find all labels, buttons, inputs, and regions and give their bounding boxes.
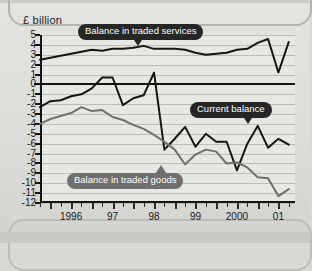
x-tick-label: 99 (190, 211, 201, 222)
x-tick (289, 203, 290, 207)
x-tick (71, 203, 73, 209)
x-tick (247, 203, 248, 207)
x-tick (216, 203, 218, 209)
x-tick (237, 203, 239, 209)
x-tick (206, 203, 207, 207)
x-tick (227, 203, 228, 207)
callout-services-pointer (132, 37, 144, 46)
callout-current-balance-pointer (242, 115, 254, 124)
callout-current-balance: Current balance (190, 102, 272, 118)
x-tick (164, 203, 165, 207)
x-tick-label: 97 (107, 211, 118, 222)
bottom-edge-strip (0, 232, 310, 243)
series-line (40, 39, 289, 73)
x-tick-label: 1996 (60, 211, 82, 222)
x-tick (92, 203, 94, 209)
x-tick-label: 01 (273, 211, 284, 222)
x-tick (185, 203, 186, 207)
x-tick (40, 203, 41, 207)
zero-baseline (34, 83, 295, 85)
x-tick (278, 203, 280, 209)
x-tick (175, 203, 177, 209)
callout-goods-pointer (155, 165, 167, 174)
y-axis-unit-label: £ billion (23, 14, 62, 26)
x-tick-label: 2000 (226, 211, 248, 222)
x-tick (133, 203, 135, 209)
x-tick (268, 203, 269, 207)
decorative-frame-bottom (8, 219, 312, 271)
x-tick (61, 203, 62, 207)
callout-goods: Balance in traded goods (67, 173, 183, 189)
y-tick-label: -12 (22, 198, 36, 208)
x-tick-label: 98 (148, 211, 159, 222)
x-tick (195, 203, 197, 209)
x-tick (102, 203, 103, 207)
x-tick (123, 203, 124, 207)
x-tick (144, 203, 145, 207)
x-tick (81, 203, 82, 207)
x-tick (258, 203, 260, 209)
x-tick (113, 203, 115, 209)
x-tick (154, 203, 156, 209)
x-tick (50, 203, 52, 209)
